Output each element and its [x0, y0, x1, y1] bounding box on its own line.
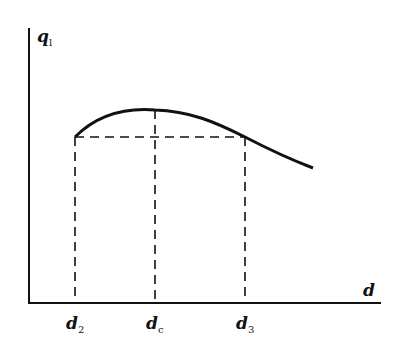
tick-sub: c — [158, 324, 164, 335]
tick-label: d — [146, 313, 158, 333]
x-axis-label: d — [363, 280, 375, 300]
tick-d2: d2 — [66, 313, 84, 333]
y-axis-label: ql — [37, 26, 52, 46]
tick-label: d — [66, 313, 78, 333]
tick-dc: dc — [146, 313, 164, 333]
tick-sub: 3 — [248, 324, 254, 335]
y-label-sub: l — [49, 37, 52, 48]
tick-sub: 2 — [78, 324, 84, 335]
q-curve — [75, 110, 313, 168]
y-label-main: q — [37, 26, 49, 46]
tick-label: d — [236, 313, 248, 333]
diagram-canvas — [0, 0, 402, 351]
x-label-main: d — [363, 280, 375, 300]
tick-d3: d3 — [236, 313, 254, 333]
